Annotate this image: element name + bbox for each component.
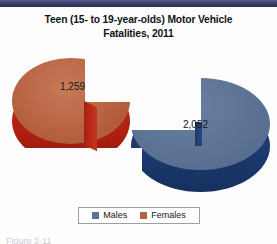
- top-decorative-rule: [0, 0, 277, 7]
- pie-slice-males-value-label: 2,052: [183, 119, 208, 130]
- chart-title-line-2: Fatalities, 2011: [0, 27, 277, 41]
- legend-swatch-males-icon: [92, 212, 99, 219]
- pie-slice-females-mask-bottom: [12, 148, 142, 178]
- chart-legend: Males Females: [78, 207, 200, 224]
- pie-slice-females-cut-face: [84, 101, 97, 151]
- legend-label-females: Females: [151, 211, 186, 220]
- legend-swatch-females-icon: [140, 212, 147, 219]
- figure-caption: Figure 2-11: [6, 236, 166, 244]
- legend-item-males[interactable]: Males: [92, 211, 127, 220]
- pie-slice-females-value-label: 1,259: [60, 81, 85, 92]
- legend-label-males: Males: [103, 211, 127, 220]
- legend-item-females[interactable]: Females: [140, 211, 186, 220]
- pie-chart-plot-area: 1,259 2,052: [0, 44, 277, 204]
- pie-slice-females-mask-right: [85, 58, 145, 102]
- chart-title-line-1: Teen (15- to 19-year-olds) Motor Vehicle: [0, 13, 277, 27]
- chart-title: Teen (15- to 19-year-olds) Motor Vehicle…: [0, 13, 277, 40]
